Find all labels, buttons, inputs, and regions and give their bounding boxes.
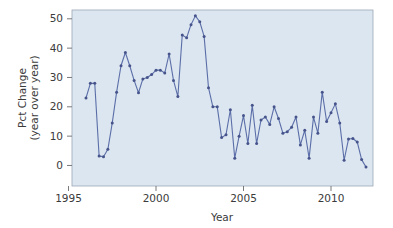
data-point-marker (325, 120, 328, 123)
data-point-marker (111, 121, 114, 124)
data-point-marker (163, 72, 166, 75)
y-tick-label: 20 (50, 100, 63, 112)
data-point-marker (343, 159, 346, 162)
data-point-marker (93, 82, 96, 85)
x-tick-label: 2010 (318, 192, 345, 204)
data-point-marker (203, 35, 206, 38)
y-axis-title-line2: (year over year) (28, 55, 40, 140)
data-point-marker (321, 91, 324, 94)
data-point-marker (330, 111, 333, 114)
data-point-marker (181, 33, 184, 36)
data-point-marker (281, 132, 284, 135)
data-point-marker (198, 20, 201, 23)
data-point-marker (347, 138, 350, 141)
y-axis-title-line1: Pct Change (16, 68, 28, 128)
data-point-marker (233, 157, 236, 160)
data-point-marker (168, 53, 171, 56)
y-tick-label: 40 (50, 42, 63, 54)
data-point-marker (137, 91, 140, 94)
data-point-marker (172, 79, 175, 82)
x-tick-label: 2000 (143, 192, 170, 204)
data-point-marker (303, 129, 306, 132)
data-point-marker (176, 95, 179, 98)
data-point-marker (155, 69, 158, 72)
data-point-marker (242, 114, 245, 117)
data-point-marker (102, 155, 105, 158)
data-point-marker (273, 105, 276, 108)
data-point-marker (277, 117, 280, 120)
x-tick-label: 1995 (55, 192, 82, 204)
data-point-marker (225, 133, 228, 136)
data-point-marker (207, 86, 210, 89)
data-point-marker (308, 157, 311, 160)
data-point-marker (299, 143, 302, 146)
data-point-marker (260, 119, 263, 122)
data-point-marker (124, 51, 127, 54)
x-tick-label: 2005 (230, 192, 257, 204)
data-point-marker (312, 116, 315, 119)
data-point-marker (115, 91, 118, 94)
data-point-marker (159, 69, 162, 72)
data-point-marker (338, 121, 341, 124)
data-point-marker (194, 14, 197, 17)
data-point-marker (268, 123, 271, 126)
y-tick-label: 0 (56, 159, 63, 171)
data-point-marker (286, 130, 289, 133)
data-point-marker (264, 116, 267, 119)
y-tick-label: 10 (50, 130, 63, 142)
x-axis-title: Year (210, 211, 234, 223)
data-point-marker (229, 108, 232, 111)
data-point-marker (106, 148, 109, 151)
data-point-marker (365, 165, 368, 168)
data-point-marker (190, 23, 193, 26)
y-tick-label: 30 (50, 71, 63, 83)
data-point-marker (85, 97, 88, 100)
data-point-marker (316, 132, 319, 135)
data-point-marker (255, 142, 258, 145)
y-tick-label: 50 (50, 12, 63, 24)
data-point-marker (150, 73, 153, 76)
data-point-marker (133, 79, 136, 82)
data-point-marker (89, 82, 92, 85)
chart-figure: 01020304050 1995200020052010 Year Pct Ch… (0, 0, 393, 228)
data-point-marker (98, 155, 101, 158)
data-point-marker (128, 64, 131, 67)
data-point-marker (211, 105, 214, 108)
data-point-marker (238, 135, 241, 138)
data-point-marker (251, 104, 254, 107)
data-point-marker (146, 76, 149, 79)
data-point-marker (356, 141, 359, 144)
data-point-marker (295, 116, 298, 119)
data-point-marker (220, 136, 223, 139)
data-point-marker (351, 137, 354, 140)
data-point-marker (290, 126, 293, 129)
data-point-marker (334, 102, 337, 105)
data-point-marker (141, 77, 144, 80)
data-point-marker (360, 158, 363, 161)
data-point-marker (185, 36, 188, 39)
data-point-marker (216, 105, 219, 108)
plot-area-background (72, 10, 373, 186)
chart-svg: 01020304050 1995200020052010 Year Pct Ch… (0, 0, 393, 228)
data-point-marker (120, 64, 123, 67)
data-point-marker (246, 142, 249, 145)
